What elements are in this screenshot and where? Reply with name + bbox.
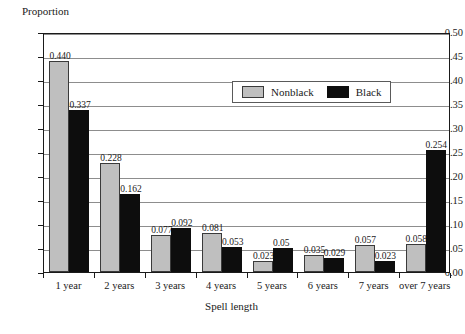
legend-label: Black (356, 86, 382, 98)
bar-value-label: 0.023 (253, 251, 274, 261)
bar-value-label: 0.057 (355, 235, 376, 245)
bar-black (171, 228, 191, 272)
bar-value-label: 0.023 (375, 251, 396, 261)
bar-value-label: 0.254 (426, 140, 447, 150)
bar-black (273, 248, 293, 272)
bar-nonblack (406, 244, 426, 272)
bar-nonblack (151, 235, 171, 272)
x-axis-tick-mark (94, 273, 95, 278)
x-axis-tick-mark (450, 273, 451, 278)
bar-value-label: 0.05 (273, 238, 290, 248)
x-axis-tick-mark (247, 273, 248, 278)
bar-value-label: 0.228 (100, 153, 121, 163)
bars-layer: 0.4400.3370.2280.1620.0770.0920.0810.053… (44, 34, 449, 272)
bar-value-label: 0.029 (324, 248, 345, 258)
bar-value-label: 0.053 (222, 237, 243, 247)
x-axis-tick-mark (145, 273, 146, 278)
bar-nonblack (304, 255, 324, 272)
x-axis-tick-mark (196, 273, 197, 278)
legend-entry: Nonblack (242, 86, 314, 98)
bar-black (426, 150, 446, 272)
bar-nonblack (253, 261, 273, 272)
bar-black (69, 110, 89, 272)
legend-label: Nonblack (271, 86, 314, 98)
x-axis-tick-mark (399, 273, 400, 278)
bar-black (375, 261, 395, 272)
bar-nonblack (355, 245, 375, 272)
plot-area: 0.4400.3370.2280.1620.0770.0920.0810.053… (43, 33, 450, 273)
bar-nonblack (100, 163, 120, 272)
bar-value-label: 0.337 (69, 100, 90, 110)
bar-value-label: 0.035 (304, 245, 325, 255)
x-axis-title: Spell length (0, 300, 463, 313)
bar-value-label: 0.092 (171, 218, 192, 228)
bar-value-label: 0.162 (120, 184, 141, 194)
chart-legend: NonblackBlack (232, 81, 391, 103)
legend-swatch-nonblack (242, 86, 264, 98)
bar-black (120, 194, 140, 272)
x-axis-tick-mark (348, 273, 349, 278)
x-axis-tick-mark (297, 273, 298, 278)
x-axis-tick-mark (43, 273, 44, 278)
y-axis-title: Proportion (22, 5, 69, 18)
bar-value-label: 0.077 (151, 225, 172, 235)
bar-black (222, 247, 242, 272)
x-axis-tick-label: over 7 years (385, 280, 465, 292)
bar-black (324, 258, 344, 272)
legend-entry: Black (327, 86, 382, 98)
bar-value-label: 0.058 (406, 234, 427, 244)
legend-swatch-black (327, 86, 349, 98)
bar-value-label: 0.440 (49, 51, 70, 61)
bar-nonblack (202, 233, 222, 272)
bar-nonblack (49, 61, 69, 272)
bar-value-label: 0.081 (202, 223, 223, 233)
